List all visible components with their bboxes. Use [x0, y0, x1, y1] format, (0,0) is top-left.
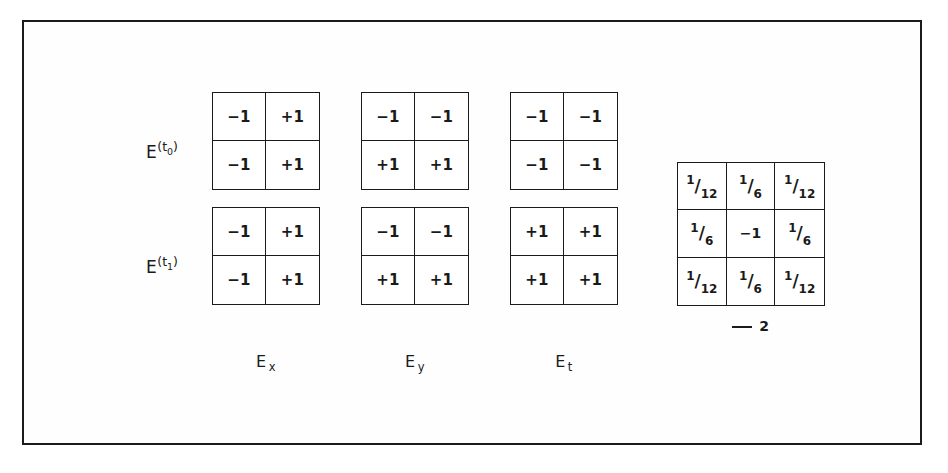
kernel-cell: −1 — [415, 93, 468, 141]
laplacian-cell: 1/12 — [775, 258, 824, 305]
laplacian-cell-center: −1 — [727, 210, 776, 257]
kernel-cell: +1 — [362, 141, 415, 189]
kernel-et-t1: +1 +1 +1 +1 — [510, 207, 618, 305]
fraction: 1/6 — [739, 175, 762, 196]
fraction: 1/12 — [784, 175, 815, 196]
laplacian-caption: 2 — [677, 318, 825, 334]
fraction: 1/12 — [686, 271, 717, 292]
row-label-t0-sup-open: (t — [157, 139, 167, 154]
row-label-t1-superscript: (t1) — [157, 254, 178, 269]
row-label-t0: E(t0) — [146, 139, 178, 162]
kernel-cell: −1 — [415, 208, 468, 256]
kernel-cell: −1 — [362, 93, 415, 141]
kernel-cell: −1 — [362, 208, 415, 256]
kernel-cell: −1 — [213, 256, 266, 304]
fraction-denominator: 6 — [705, 234, 713, 248]
fraction: 1/6 — [739, 271, 762, 292]
kernel-ex-t1: −1 +1 −1 +1 — [212, 207, 320, 305]
kernel-cell: +1 — [266, 208, 319, 256]
column-caption-ey: Ey — [361, 352, 469, 374]
fraction-slash: / — [747, 271, 753, 291]
kernel-cell: −1 — [511, 93, 564, 141]
column-caption-ex-sub: x — [267, 360, 276, 374]
laplacian-cell: 1/12 — [678, 163, 727, 210]
fraction-slash: / — [792, 176, 798, 196]
fraction-numerator: 1 — [686, 173, 694, 187]
kernel-cell: −1 — [511, 141, 564, 189]
laplacian-caption-exponent: 2 — [759, 318, 770, 334]
laplacian-cell: 1/12 — [775, 163, 824, 210]
kernel-cell: +1 — [415, 141, 468, 189]
laplacian-cell: 1/6 — [727, 163, 776, 210]
nabla-bar-icon — [732, 326, 752, 328]
fraction-denominator: 12 — [701, 187, 718, 201]
kernel-cell: −1 — [213, 93, 266, 141]
column-caption-et-sub: t — [566, 360, 573, 374]
row-label-t1-sup-close: ) — [173, 254, 178, 269]
fraction-denominator: 12 — [701, 282, 718, 296]
row-label-t0-sup-close: ) — [173, 139, 178, 154]
kernel-et-t0: −1 −1 −1 −1 — [510, 92, 618, 190]
column-caption-ey-base: E — [405, 352, 416, 371]
kernel-ey-t1: −1 −1 +1 +1 — [361, 207, 469, 305]
kernel-cell: +1 — [362, 256, 415, 304]
laplacian-cell: 1/12 — [678, 258, 727, 305]
kernel-cell: +1 — [266, 256, 319, 304]
fraction-slash: / — [792, 271, 798, 291]
fraction-slash: / — [695, 176, 701, 196]
fraction-numerator: 1 — [788, 221, 796, 235]
kernel-laplacian-3x3: 1/12 1/6 1/12 1/6 −1 1/6 1/12 1/6 1/12 — [677, 162, 825, 306]
fraction-slash: / — [695, 271, 701, 291]
fraction-denominator: 6 — [803, 234, 811, 248]
column-caption-et: Et — [510, 352, 618, 374]
kernel-cell: +1 — [511, 208, 564, 256]
row-label-t0-superscript: (t0) — [157, 139, 178, 154]
fraction-denominator: 12 — [799, 187, 816, 201]
figure-frame: E(t0) E(t1) −1 +1 −1 +1 −1 −1 +1 +1 −1 −… — [22, 20, 922, 445]
fraction-slash: / — [699, 223, 705, 243]
kernel-cell: +1 — [511, 256, 564, 304]
kernel-cell: +1 — [564, 208, 617, 256]
kernel-ey-t0: −1 −1 +1 +1 — [361, 92, 469, 190]
fraction-numerator: 1 — [690, 221, 698, 235]
fraction: 1/12 — [784, 271, 815, 292]
laplacian-cell: 1/6 — [727, 258, 776, 305]
kernel-diagram: E(t0) E(t1) −1 +1 −1 +1 −1 −1 +1 +1 −1 −… — [24, 22, 920, 443]
kernel-cell: +1 — [415, 256, 468, 304]
fraction-denominator: 12 — [799, 282, 816, 296]
laplacian-cell: 1/6 — [678, 210, 727, 257]
kernel-cell: −1 — [564, 141, 617, 189]
kernel-cell: +1 — [266, 93, 319, 141]
kernel-ex-t0: −1 +1 −1 +1 — [212, 92, 320, 190]
fraction: 1/12 — [686, 175, 717, 196]
column-caption-ey-sub: y — [416, 360, 425, 374]
fraction: 1/6 — [788, 223, 811, 244]
fraction-slash: / — [747, 176, 753, 196]
fraction-denominator: 6 — [754, 187, 762, 201]
row-label-t1-sup-open: (t — [157, 254, 167, 269]
kernel-cell: +1 — [266, 141, 319, 189]
column-caption-ex-base: E — [256, 352, 267, 371]
fraction-numerator: 1 — [686, 269, 694, 283]
column-caption-et-base: E — [555, 352, 566, 371]
fraction-denominator: 6 — [754, 282, 762, 296]
kernel-cell: +1 — [564, 256, 617, 304]
row-label-t1-base: E — [146, 257, 157, 277]
fraction-slash: / — [797, 223, 803, 243]
fraction: 1/6 — [690, 223, 713, 244]
kernel-cell: −1 — [564, 93, 617, 141]
row-label-t1: E(t1) — [146, 254, 178, 277]
row-label-t0-base: E — [146, 142, 157, 162]
kernel-cell: −1 — [213, 208, 266, 256]
column-caption-ex: Ex — [212, 352, 320, 374]
kernel-cell: −1 — [213, 141, 266, 189]
laplacian-cell: 1/6 — [775, 210, 824, 257]
